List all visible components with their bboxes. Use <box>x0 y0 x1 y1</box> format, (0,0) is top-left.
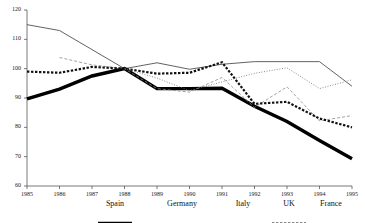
y-tick-label: 100 <box>3 65 21 71</box>
x-tick-label: 1986 <box>45 191 75 197</box>
axes <box>27 10 352 186</box>
y-tick-label: 90 <box>3 94 21 100</box>
legend-swatch-spain <box>98 212 132 216</box>
y-tick-label: 110 <box>3 35 21 41</box>
y-tick-label: 80 <box>3 123 21 129</box>
chart-legend: SpainGermanyItalyUKFrance <box>0 199 365 223</box>
axis-ticks <box>24 10 352 189</box>
x-tick-label: 1993 <box>272 191 302 197</box>
x-tick-label: 1994 <box>305 191 335 197</box>
data-series <box>27 25 352 159</box>
y-tick-label: 70 <box>3 153 21 159</box>
plot-area <box>0 0 365 223</box>
x-tick-label: 1987 <box>77 191 107 197</box>
series-line-spain <box>27 69 352 159</box>
y-tick-label: 60 <box>3 182 21 188</box>
series-line-germany <box>27 25 352 87</box>
legend-swatch-germany <box>165 212 199 216</box>
legend-swatch-italy <box>226 212 260 216</box>
legend-item-germany[interactable]: Germany <box>152 199 212 216</box>
legend-label: Germany <box>152 199 212 209</box>
x-tick-label: 1988 <box>110 191 140 197</box>
series-line-uk <box>27 62 352 127</box>
x-tick-label: 1989 <box>142 191 172 197</box>
x-tick-label: 1992 <box>240 191 270 197</box>
legend-label: Spain <box>85 199 145 209</box>
legend-swatch-france <box>314 212 348 216</box>
legend-label: France <box>301 199 361 209</box>
y-tick-label: 120 <box>3 6 21 12</box>
legend-item-france[interactable]: France <box>301 199 361 216</box>
x-tick-label: 1990 <box>175 191 205 197</box>
legend-item-spain[interactable]: Spain <box>85 199 145 216</box>
line-chart: 60708090100110120 1985198619871988198919… <box>0 0 365 223</box>
x-tick-label: 1991 <box>207 191 237 197</box>
x-tick-label: 1995 <box>337 191 365 197</box>
x-tick-label: 1985 <box>12 191 42 197</box>
